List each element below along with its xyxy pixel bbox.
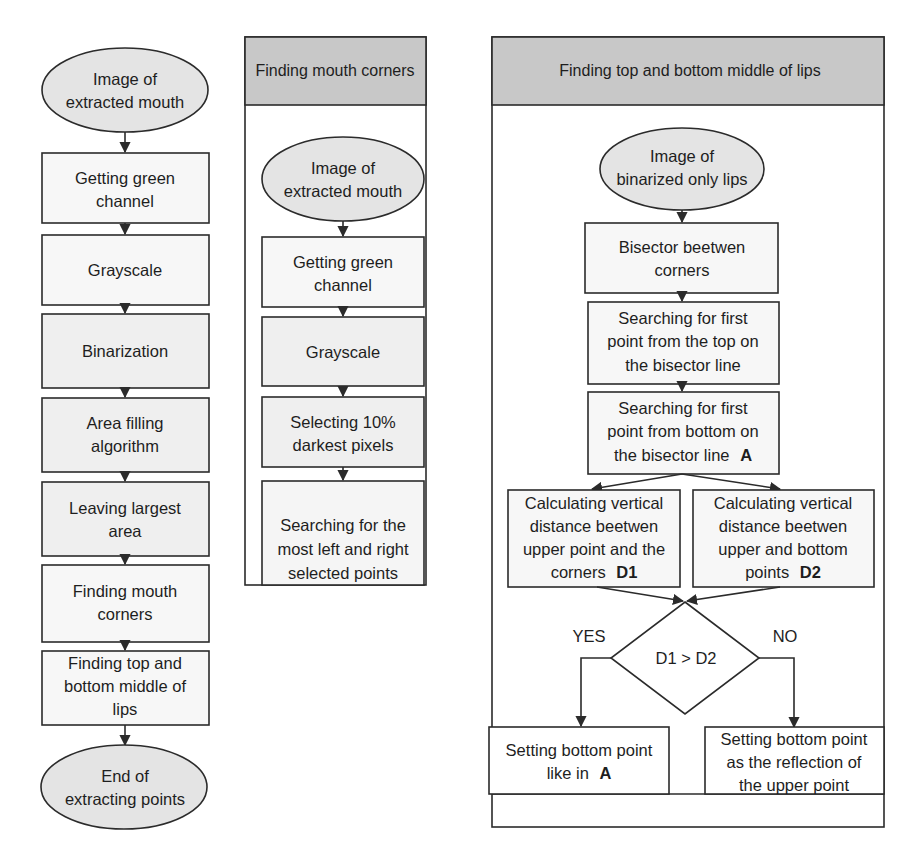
- svg-text:Searching for first: Searching for first: [618, 399, 748, 417]
- svg-text:Binarization: Binarization: [82, 342, 168, 360]
- svg-text:channel: channel: [314, 276, 372, 294]
- flowchart-canvas: Image of extracted mouth Getting green c…: [0, 0, 916, 863]
- svg-text:Setting bottom point: Setting bottom point: [506, 741, 653, 759]
- start-terminal: [42, 48, 208, 132]
- svg-text:point from the top on: point from the top on: [607, 332, 758, 350]
- svg-text:binarized only lips: binarized only lips: [616, 170, 747, 188]
- step-getting-green-channel: [262, 237, 424, 307]
- svg-text:lips: lips: [113, 700, 138, 718]
- svg-text:Bisector beetwen: Bisector beetwen: [619, 238, 746, 256]
- svg-text:NO: NO: [773, 627, 798, 645]
- svg-text:Finding mouth: Finding mouth: [73, 582, 178, 600]
- svg-text:Image of: Image of: [311, 159, 376, 177]
- svg-text:Searching for first: Searching for first: [618, 309, 748, 327]
- svg-text:Finding top and: Finding top and: [68, 654, 182, 672]
- svg-text:most left and right: most left and right: [277, 540, 409, 558]
- svg-text:D1 > D2: D1 > D2: [656, 649, 717, 667]
- svg-text:Selecting 10%: Selecting 10%: [290, 413, 396, 431]
- svg-text:selected points: selected points: [288, 564, 398, 582]
- mouth-corners-panel: [245, 37, 426, 585]
- svg-text:corners D1: corners D1: [551, 563, 638, 581]
- svg-text:channel: channel: [96, 192, 154, 210]
- svg-text:as the reflection of: as the reflection of: [727, 753, 862, 771]
- svg-text:extracted mouth: extracted mouth: [284, 182, 402, 200]
- svg-text:Finding mouth corners: Finding mouth corners: [255, 62, 414, 79]
- svg-text:Leaving largestalgorithm: Leaving largestalgorithm: [91, 437, 159, 455]
- svg-text:Calculating vertical: Calculating vertical: [714, 494, 852, 512]
- svg-text:corners: corners: [97, 605, 152, 623]
- svg-text:point from bottom on: point from bottom on: [607, 422, 758, 440]
- svg-text:Setting bottom point: Setting bottom point: [721, 730, 868, 748]
- svg-text:Calculating vertical: Calculating vertical: [525, 494, 663, 512]
- svg-text:End of: End of: [101, 767, 149, 785]
- svg-text:the bisector line: the bisector line: [625, 356, 741, 374]
- step-area-filling: [42, 398, 209, 472]
- svg-text:Getting green: Getting green: [75, 169, 175, 187]
- svg-text:corners: corners: [654, 261, 709, 279]
- svg-text:bottom middle of: bottom middle of: [64, 677, 186, 695]
- svg-text:points D2: points D2: [745, 563, 821, 581]
- svg-text:Leaving largest: Leaving largest: [69, 499, 181, 517]
- svg-text:Grayscale: Grayscale: [306, 343, 380, 361]
- step-finding-mouth-corners: [42, 565, 209, 642]
- svg-text:distance beetwen: distance beetwen: [530, 517, 658, 535]
- svg-text:Area filling: Area filling: [86, 414, 163, 432]
- svg-text:Image of: Image of: [93, 70, 158, 88]
- svg-text:upper point and the: upper point and the: [523, 540, 665, 558]
- svg-text:the bisector line A: the bisector line A: [614, 446, 752, 464]
- svg-text:upper and bottom: upper and bottom: [718, 540, 847, 558]
- svg-text:extracting points: extracting points: [65, 790, 185, 808]
- svg-text:the upper point: the upper point: [739, 776, 850, 794]
- start-terminal: [600, 128, 764, 210]
- svg-text:YES: YES: [572, 627, 605, 645]
- svg-text:Image of: Image of: [650, 147, 715, 165]
- svg-text:Grayscale: Grayscale: [88, 261, 162, 279]
- svg-text:distance beetwen: distance beetwen: [719, 517, 847, 535]
- step-leaving-largest-area: [42, 482, 209, 556]
- svg-text:area: area: [108, 522, 142, 540]
- step-getting-green-channel: [42, 153, 209, 223]
- step-selecting-darkest: [262, 397, 424, 467]
- svg-text:Getting green: Getting green: [293, 253, 393, 271]
- start-terminal: [262, 137, 424, 221]
- svg-text:Finding top and bottom middle: Finding top and bottom middle of lips: [559, 62, 820, 79]
- svg-text:darkest pixels: darkest pixels: [293, 436, 394, 454]
- svg-text:like in A: like in A: [547, 764, 612, 782]
- step-set-like-a: [489, 727, 669, 794]
- end-terminal: [41, 745, 207, 829]
- svg-text:extracted mouth: extracted mouth: [66, 93, 184, 111]
- svg-text:Searching for the: Searching for the: [280, 516, 406, 534]
- step-bisector: [585, 223, 778, 293]
